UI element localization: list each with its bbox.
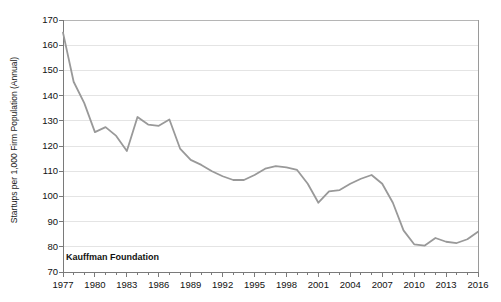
chart-container: Startups per 1,000 Firm Population (Annu… xyxy=(0,0,501,302)
data-line-startup-rate xyxy=(63,33,478,246)
kauffman-foundation-annotation: Kauffman Foundation xyxy=(66,252,159,262)
